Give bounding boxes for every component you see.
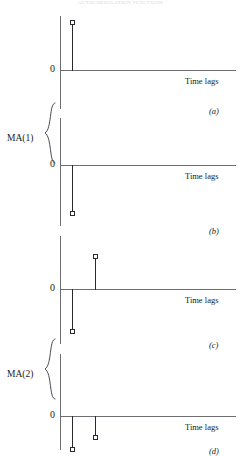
panel-c-x-label: Time lags — [185, 295, 218, 305]
panel-d-x-axis — [60, 416, 236, 417]
panel-c-y-axis — [60, 236, 61, 344]
panel-d-stem-lag2 — [95, 416, 96, 437]
panel-d-x-label: Time lags — [185, 422, 218, 432]
group-brace-ma1 — [43, 102, 57, 164]
panel-a-marker-lag1 — [70, 20, 75, 25]
panel-c-marker-lag1 — [70, 329, 75, 334]
panel-c-marker-lag2 — [93, 254, 98, 259]
panel-b-label: (b) — [209, 226, 219, 236]
group-brace-ma2 — [43, 338, 57, 400]
panel-a: 0 Time lags (a) — [0, 0, 241, 110]
panel-b-y-axis — [60, 118, 61, 226]
panel-c-zero-label: 0 — [50, 283, 55, 293]
panel-a-stem-lag1 — [72, 23, 73, 71]
panel-a-x-axis — [60, 70, 236, 71]
group-label-ma2: MA(2) — [7, 369, 33, 379]
panel-b: 0 Time lags (b) — [0, 118, 241, 228]
panel-b-stem-lag1 — [72, 165, 73, 213]
panel-d-marker-lag1 — [70, 447, 75, 452]
panel-c-stem-lag2 — [95, 257, 96, 290]
panel-d-y-axis — [60, 354, 61, 450]
panel-d-stem-lag1 — [72, 416, 73, 450]
panel-c-stem-lag1 — [72, 289, 73, 331]
panel-d-marker-lag2 — [93, 435, 98, 440]
panel-a-y-axis — [60, 16, 61, 109]
panel-b-x-axis — [60, 165, 236, 166]
panel-a-x-label: Time lags — [185, 76, 218, 86]
panel-c-label: (c) — [209, 340, 218, 350]
panel-d-label: (d) — [209, 446, 219, 456]
group-label-ma1: MA(1) — [7, 133, 33, 143]
panel-b-marker-lag1 — [70, 211, 75, 216]
panel-c-x-axis — [60, 289, 236, 290]
panel-d-zero-label: 0 — [50, 410, 55, 420]
panel-a-zero-label: 0 — [50, 64, 55, 74]
panel-b-x-label: Time lags — [185, 171, 218, 181]
panel-a-label: (a) — [209, 106, 219, 116]
panel-c: 0 Time lags (c) — [0, 236, 241, 346]
panel-d: 0 Time lags (d) — [0, 354, 241, 450]
